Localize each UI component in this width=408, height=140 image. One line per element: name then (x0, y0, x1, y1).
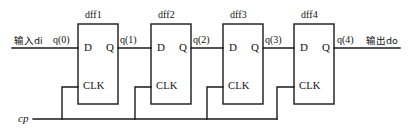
dff1-box (78, 24, 118, 104)
clock-branch-dff4 (277, 87, 294, 119)
dff2-title: dff2 (158, 10, 175, 20)
input-label: 输入di (14, 36, 43, 46)
dff1-title: dff1 (85, 10, 102, 20)
dff3-title: dff3 (230, 10, 247, 20)
dff3-box (223, 24, 263, 104)
signal-label-q2: q(2) (193, 35, 210, 45)
dff1-pin-q: Q (106, 42, 114, 53)
clock-branch-dff3 (207, 87, 223, 119)
output-signal-label: q(4) (337, 35, 354, 45)
dff1-pin-clk: CLK (83, 81, 105, 92)
signal-label-q1: q(1) (120, 35, 137, 45)
dff-shift-register-diagram: dff1 dff2 dff3 dff4 D D D D Q Q Q Q CLK … (0, 0, 408, 140)
dff2-pin-q: Q (179, 42, 187, 53)
dff3-pin-d: D (229, 42, 237, 53)
diagram-wires (0, 0, 408, 140)
dff4-pin-q: Q (322, 42, 330, 53)
dff4-box (294, 24, 334, 104)
dff4-title: dff4 (301, 10, 318, 20)
clock-branch-dff2 (135, 87, 151, 119)
output-label: 输出do (366, 36, 398, 46)
signal-label-q3: q(3) (265, 35, 282, 45)
clock-branch-dff1 (62, 87, 78, 119)
dff3-pin-q: Q (251, 42, 259, 53)
dff2-pin-d: D (157, 42, 165, 53)
dff1-pin-d: D (84, 42, 92, 53)
input-signal-label: q(0) (53, 35, 70, 45)
dff3-pin-clk: CLK (228, 81, 250, 92)
dff2-pin-clk: CLK (156, 81, 178, 92)
dff4-pin-d: D (300, 42, 308, 53)
dff2-box (151, 24, 191, 104)
clock-source-label: cp (18, 113, 28, 124)
dff4-pin-clk: CLK (299, 81, 321, 92)
